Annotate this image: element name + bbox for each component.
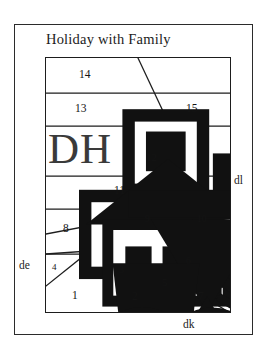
treemap-plot-area: 14 13 xyxy=(45,57,231,313)
axis-label-de: de xyxy=(19,259,30,271)
treemap-cell-6[interactable]: 6 xyxy=(186,256,194,266)
treemap-cell-2[interactable]: 2 xyxy=(132,290,141,302)
treemap-cell-14[interactable]: 14 xyxy=(79,68,94,80)
dh-watermark: DH xyxy=(48,126,158,172)
treemap-cell-8[interactable]: 8 xyxy=(63,222,72,234)
figure-title: Holiday with Family xyxy=(46,31,171,48)
treemap-cell-15[interactable]: 15 xyxy=(186,102,201,114)
treemap-cell-4[interactable]: 4 xyxy=(49,262,57,272)
treemap-cell-11[interactable]: 11 xyxy=(114,184,128,196)
treemap-cell-9[interactable]: 9 xyxy=(142,214,150,224)
axis-label-dl: dl xyxy=(234,174,243,186)
treemap-cell-10[interactable]: 10 xyxy=(187,213,207,224)
treemap-cell-1[interactable]: 1 xyxy=(72,289,81,301)
treemap-cell-13[interactable]: 13 xyxy=(75,102,90,114)
axis-label-dk: dk xyxy=(183,318,195,330)
treemap-figure: Holiday with Family xyxy=(0,0,267,358)
treemap-cell-7[interactable]: 7 xyxy=(198,290,207,302)
treemap-cell-3[interactable]: 3 xyxy=(119,264,127,275)
treemap-cell-5[interactable]: 5 xyxy=(162,276,171,288)
